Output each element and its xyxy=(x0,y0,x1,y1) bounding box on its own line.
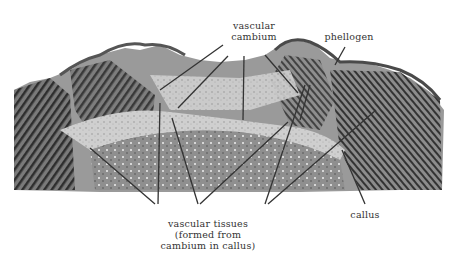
label-vascular-tissues-line3: cambium in callus) xyxy=(160,240,256,251)
label-vascular-tissues: vascular tissues (formed from cambium in… xyxy=(160,218,256,251)
micrograph-figure: vascular cambium phellogen callus vascul… xyxy=(0,0,456,254)
label-phellogen: phellogen xyxy=(324,31,374,42)
label-vascular-tissues-line2: (formed from xyxy=(160,229,256,240)
label-vascular-cambium-line2: cambium xyxy=(222,31,286,42)
label-vascular-cambium-line1: vascular xyxy=(222,20,286,31)
label-vascular-tissues-line1: vascular tissues xyxy=(160,218,256,229)
label-callus: callus xyxy=(345,209,385,220)
label-vascular-cambium: vascular cambium xyxy=(222,20,286,42)
